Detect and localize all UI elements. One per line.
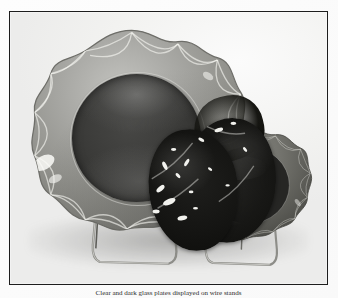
glass-highlights [143,94,289,257]
photo-frame [9,11,328,285]
figure-caption: Clear and dark glass plates displayed on… [9,289,328,298]
page: PLATE COLLECTION CATALOG GLASSWARE [0,0,338,298]
photograph [10,12,327,284]
